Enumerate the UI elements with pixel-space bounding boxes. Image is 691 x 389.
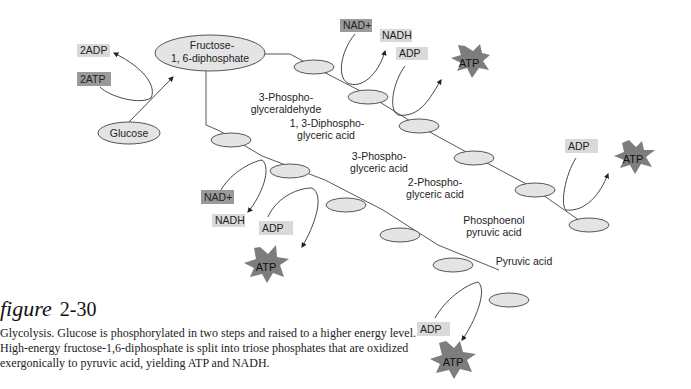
lower-oval-5 xyxy=(433,258,473,272)
lower-atp-label-2: ATP xyxy=(443,356,464,368)
2pg-label-2: glyceric acid xyxy=(406,188,464,200)
lower-adp-label-1: ADP xyxy=(262,222,284,234)
bpg-label-2: glyceric acid xyxy=(297,129,355,141)
upper-oval-2 xyxy=(348,90,388,104)
lower-oval-6 xyxy=(489,293,529,307)
bpg-label-1: 1, 3-Diphospho- xyxy=(290,117,365,129)
pep-label-1: Phosphoenol xyxy=(463,214,524,226)
upper-adp-label-2: ADP xyxy=(568,140,590,152)
upper-atp-label-1: ATP xyxy=(459,57,480,69)
3pg-label-2: glyceric acid xyxy=(350,162,408,174)
pep-label-2: pyruvic acid xyxy=(466,226,522,238)
3pg-label-1: 3-Phospho- xyxy=(352,150,407,162)
upper-oval-1 xyxy=(294,60,334,74)
lower-adp-arc-1 xyxy=(268,188,318,247)
lower-oval-3 xyxy=(326,198,366,212)
upper-adp-label-1: ADP xyxy=(399,47,421,59)
g3p-label-2: glyceraldehyde xyxy=(251,103,322,115)
pyruvate-label: Pyruvic acid xyxy=(496,255,553,267)
glucose-label: Glucose xyxy=(110,127,149,139)
2atp-label: 2ATP xyxy=(80,73,105,85)
fructose-label-1: Fructose- xyxy=(190,39,235,51)
lower-oval-4 xyxy=(380,228,420,242)
upper-atp-label-2: ATP xyxy=(623,153,644,165)
lower-oval-1 xyxy=(211,133,251,147)
upper-adp-arc-1 xyxy=(393,66,441,115)
upper-nadh-label: NADH xyxy=(382,29,412,41)
2pg-label-1: 2-Phospho- xyxy=(408,176,463,188)
figure-caption: figure 2-30 Glycolysis. Glucose is phosp… xyxy=(0,296,430,371)
upper-oval-4 xyxy=(454,151,494,165)
2adp-label: 2ADP xyxy=(80,44,107,56)
lower-nad-arc xyxy=(220,160,266,212)
lower-nad-label: NAD+ xyxy=(204,191,232,203)
figure-title: figure 2-30 xyxy=(0,296,430,322)
upper-nad-label: NAD+ xyxy=(343,19,371,31)
figure-word: figure xyxy=(0,296,52,321)
figure-number: 2-30 xyxy=(60,298,97,320)
upper-oval-5 xyxy=(515,183,555,197)
lower-atp-label-1: ATP xyxy=(256,261,277,273)
glucose-to-fructose-arrow xyxy=(129,77,173,122)
figure-caption-text: Glycolysis. Glucose is phosphorylated in… xyxy=(0,326,430,371)
fructose-label-2: 1, 6-diphosphate xyxy=(171,52,249,64)
lower-nadh-label: NADH xyxy=(215,214,245,226)
upper-adp-arc-2 xyxy=(563,158,608,210)
upper-oval-6 xyxy=(569,218,609,232)
lower-oval-2 xyxy=(270,164,310,178)
upper-oval-3 xyxy=(399,119,439,133)
g3p-label-1: 3-Phospho- xyxy=(259,91,314,103)
upper-nad-arc xyxy=(341,34,385,85)
